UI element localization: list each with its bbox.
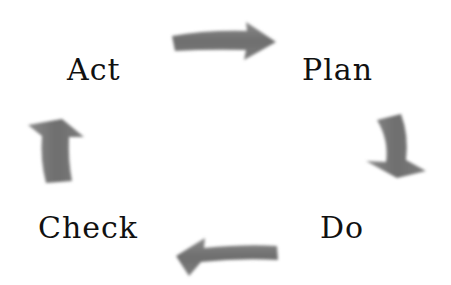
step-label-check: Check bbox=[38, 213, 138, 243]
step-label-do: Do bbox=[320, 213, 364, 243]
arrow-right-icon bbox=[172, 22, 276, 60]
step-label-act: Act bbox=[67, 55, 121, 85]
arrow-down-icon bbox=[366, 114, 426, 178]
step-label-plan: Plan bbox=[302, 55, 373, 85]
arrow-left-icon bbox=[176, 238, 278, 276]
pdca-cycle-diagram: Act Plan Check Do bbox=[0, 0, 451, 285]
arrow-up-icon bbox=[28, 119, 84, 183]
